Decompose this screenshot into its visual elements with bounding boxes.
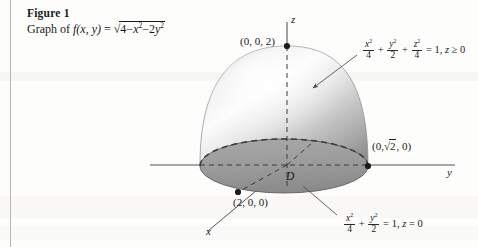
region-label-d: D <box>286 170 294 182</box>
point-label-x-intercept: (2, 0, 0) <box>233 196 268 208</box>
condition-relation: ≥ 0 <box>452 44 466 55</box>
condition-variable: z <box>445 44 449 55</box>
denominator: 2 <box>387 51 398 61</box>
condition-relation: = 0 <box>409 218 423 229</box>
figure-drawing <box>0 0 478 247</box>
denominator: 4 <box>344 225 355 235</box>
plus-sign: + <box>359 218 365 229</box>
plus-sign: + <box>378 44 384 55</box>
fraction-y2-over-2: y2 2 <box>368 214 379 234</box>
point-label-apex: (0, 0, 2) <box>240 35 275 47</box>
point-apex-marker <box>284 43 290 49</box>
plus-sign: + <box>402 44 408 55</box>
condition-variable: z <box>402 218 406 229</box>
denominator: 2 <box>368 225 379 235</box>
equals-one: = 1, <box>426 44 442 55</box>
point-x-intercept-marker <box>235 189 241 195</box>
y-intercept-suffix: , 0) <box>396 140 411 152</box>
denominator: 4 <box>363 51 374 61</box>
z-axis-label: z <box>291 13 295 25</box>
point-label-y-intercept: (0,√2, 0) <box>372 139 411 152</box>
y-axis-label: y <box>447 166 452 178</box>
fraction-y2-over-2: y2 2 <box>387 40 398 60</box>
y-intercept-prefix: (0, <box>372 140 384 152</box>
fraction-z2-over-4: z2 4 <box>412 40 423 60</box>
denominator: 4 <box>412 51 423 61</box>
figure-page: Figure 1 Graph of f(x, y) = √4−x2−2y2 <box>0 0 478 247</box>
x-axis-label: x <box>206 225 211 237</box>
equation-surface: x2 4 + y2 2 + z2 4 = 1, z ≥ 0 <box>362 40 465 60</box>
equals-one: = 1, <box>383 218 399 229</box>
point-y-intercept-marker <box>365 163 371 169</box>
equation-base: x2 4 + y2 2 = 1, z = 0 <box>343 214 423 234</box>
fraction-x2-over-4: x2 4 <box>363 40 374 60</box>
fraction-x2-over-4: x2 4 <box>344 214 355 234</box>
